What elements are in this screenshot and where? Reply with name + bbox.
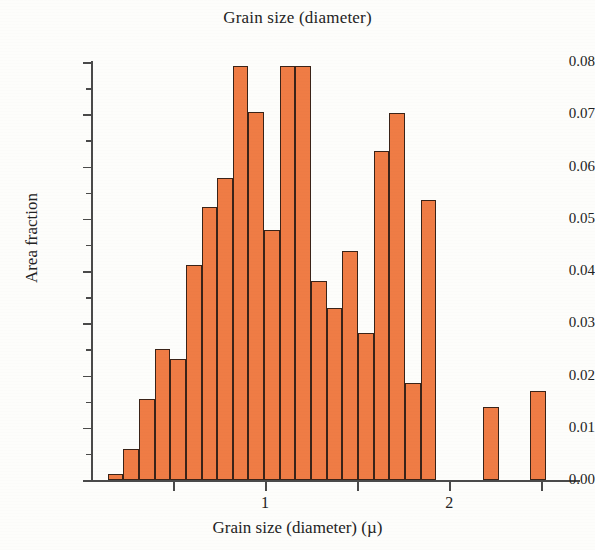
histogram-bar — [139, 399, 155, 480]
histogram-bar — [264, 230, 280, 480]
y-tick-major — [83, 428, 92, 430]
histogram-bar — [186, 265, 202, 480]
histogram-bar — [483, 407, 499, 480]
histogram-bar — [248, 112, 264, 480]
y-tick-major — [83, 480, 92, 482]
x-axis-title: Grain size (diameter) (µ) — [0, 518, 595, 538]
histogram-bar — [217, 178, 233, 480]
x-tick-label: 2 — [429, 494, 469, 512]
y-tick-major — [83, 271, 92, 273]
histogram-bar — [155, 349, 171, 480]
histogram-bar — [202, 207, 218, 480]
histogram-bar — [295, 66, 311, 480]
histogram-bar — [374, 151, 390, 480]
y-tick-major — [83, 376, 92, 378]
x-axis-line — [91, 480, 580, 482]
y-tick-major — [83, 323, 92, 325]
chart-title: Grain size (diameter) — [0, 8, 595, 28]
chart-page: Grain size (diameter) 0.000.010.020.030.… — [0, 0, 595, 550]
histogram-bar — [170, 359, 186, 480]
histogram-bar — [358, 333, 374, 480]
y-tick-major — [83, 114, 92, 116]
histogram-bar — [280, 66, 296, 480]
histogram-bar — [327, 308, 343, 480]
histogram-bar — [530, 391, 546, 480]
y-axis-title: Area fraction — [22, 118, 42, 358]
y-tick-major — [83, 219, 92, 221]
histogram-bar — [421, 200, 437, 480]
x-tick — [449, 482, 451, 491]
histogram-bar — [389, 113, 405, 480]
histogram-bar — [108, 474, 124, 480]
x-tick — [357, 482, 359, 491]
histogram-bar — [311, 281, 327, 480]
y-tick-major — [83, 167, 92, 169]
x-tick — [541, 482, 543, 491]
histogram-bar — [405, 383, 421, 480]
plot-area — [92, 62, 578, 480]
histogram-bar — [342, 251, 358, 480]
y-tick-major — [83, 62, 92, 64]
x-tick-label: 1 — [245, 494, 285, 512]
histogram-bar — [123, 449, 139, 480]
histogram-bar — [233, 66, 249, 480]
x-tick — [265, 482, 267, 491]
x-tick — [173, 482, 175, 491]
